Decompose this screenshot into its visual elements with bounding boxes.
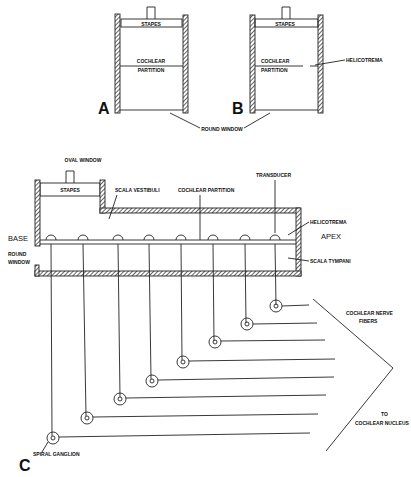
round-window-callout: ROUND WINDOW [170,113,270,132]
stapes-label: STAPES [60,187,80,193]
panel-a: STAPES COCHLEAR PARTITION A [98,7,188,117]
panel-b: STAPES HELICOTREMA COCHLEAR PARTITION B [232,7,383,117]
panel-c-letter: C [19,457,31,474]
scala-vestibuli-label: SCALA VESTIBULI [115,187,160,193]
round-window-label: ROUND [8,251,27,257]
stapes-label: STAPES [141,21,161,27]
spiral-ganglion-label: SPIRAL GANGLION [33,451,80,457]
nerve-bundle-arrow [313,299,393,451]
helicotrema-label: HELICOTREMA [346,57,383,63]
oval-window-label: OVAL WINDOW [65,157,102,163]
round-window-label-2: WINDOW [8,259,30,265]
round-window-label: ROUND WINDOW [201,126,243,132]
hair-cells [46,235,280,436]
cochlea-diagram: STAPES COCHLEAR PARTITION A STAPES HELIC… [0,0,411,477]
partition-label-2: PARTITION [138,67,165,73]
transducer-label: TRANSDUCER [256,172,291,178]
apex-label: APEX [321,232,341,241]
partition-label: COCHLEAR [137,58,166,64]
stapes-label: STAPES [275,21,295,27]
partition-label: COCHLEAR [261,58,290,64]
partition-label-2: PARTITION [261,67,288,73]
panel-a-letter: A [98,100,110,117]
helicotrema-label: HELICOTREMA [310,219,347,225]
base-label: BASE [8,234,28,243]
cochlear-partition-label: COCHLEAR PARTITION [178,187,235,193]
nucleus-label: TO [381,411,388,417]
nerve-fibers-label: COCHLEAR NERVE [346,310,394,316]
scala-tympani-label: SCALA TYMPANI [310,258,351,264]
panel-c: OVAL WINDOW STAPES SCALA VESTIBULI COCHL… [8,157,410,474]
ganglion-cells [47,300,335,444]
nucleus-label-2: COCHLEAR NUCLEUS [355,420,410,426]
nerve-fibers-label-2: FIBERS [359,318,378,324]
panel-b-letter: B [232,100,244,117]
